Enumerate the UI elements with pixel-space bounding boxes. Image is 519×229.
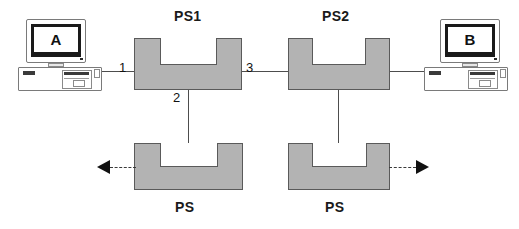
host-a-power-switch [94, 69, 100, 78]
host-b-computer[interactable]: B [424, 19, 508, 91]
host-b-panel-slot [470, 72, 495, 75]
uplink-left-dashed-line [110, 167, 136, 168]
switch1-label: PS1 [174, 9, 201, 23]
host-b-drive-slot [429, 71, 441, 75]
switch2-label: PS2 [322, 9, 349, 23]
port-label-2: 2 [173, 91, 180, 104]
switch-ps-bottom-right-label: PS [325, 200, 344, 214]
host-b-screen: B [445, 24, 495, 55]
host-a-label: A [51, 32, 62, 47]
host-b-panel-button [479, 80, 491, 87]
host-b-label: B [465, 32, 476, 47]
host-a-screen-bezel [31, 55, 81, 57]
uplink-right-dashed-line [389, 167, 416, 168]
switch-ps1[interactable] [134, 38, 242, 90]
switch-ps2[interactable] [288, 38, 390, 90]
switch-ps-bottom-right-notch [312, 143, 367, 167]
host-a-panel-button [73, 80, 85, 87]
link-switch2-switch4 [338, 89, 339, 144]
host-a-power-led [80, 58, 83, 60]
link-switch2-hostb [389, 71, 426, 72]
port-label-1: 1 [119, 61, 126, 74]
host-b-panel-line-1 [470, 78, 495, 79]
host-b-power-switch [500, 69, 506, 78]
host-a-panel-line-1 [64, 78, 89, 79]
host-a-computer[interactable]: A [18, 19, 102, 91]
link-switch1-switch3 [188, 89, 189, 144]
switch-ps-bottom-left[interactable] [134, 143, 243, 190]
network-diagram-canvas: PS1 PS2 1 2 3 PS PS A [0, 0, 519, 229]
link-hosta-switch1 [100, 71, 135, 72]
switch-ps-bottom-left-notch [160, 143, 218, 167]
host-b-screen-bezel [445, 55, 495, 57]
host-a-screen: A [31, 24, 81, 55]
switch-ps2-notch [312, 38, 366, 65]
arrow-left-icon [97, 160, 110, 174]
switch-ps1-notch [160, 38, 217, 65]
host-a-panel-slot [64, 72, 89, 75]
arrow-right-icon [416, 160, 429, 174]
host-b-power-led [494, 58, 497, 60]
switch-ps-bottom-left-label: PS [175, 200, 194, 214]
switch-ps-bottom-right[interactable] [288, 143, 390, 190]
port-label-3: 3 [246, 61, 253, 74]
host-a-drive-slot [23, 71, 35, 75]
